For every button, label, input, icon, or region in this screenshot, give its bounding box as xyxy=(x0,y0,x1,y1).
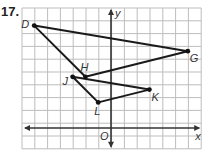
point-h xyxy=(83,74,88,79)
point-label-h: H xyxy=(80,61,88,73)
coordinate-plane: yxO DGHJKL xyxy=(0,0,204,151)
point-l xyxy=(96,100,101,105)
point-label-g: G xyxy=(190,52,199,64)
y-axis-arrow-down-icon xyxy=(108,142,114,148)
point-j xyxy=(70,74,75,79)
point-label-l: L xyxy=(94,105,100,117)
point-label-j: J xyxy=(62,75,69,87)
point-label-k: K xyxy=(151,91,159,103)
y-axis-arrow-up-icon xyxy=(108,9,114,15)
x-axis-label: x xyxy=(194,130,201,142)
point-d xyxy=(32,23,37,28)
x-axis-arrow-left-icon xyxy=(24,125,30,131)
point-label-d: D xyxy=(21,18,29,30)
y-axis-label: y xyxy=(114,7,122,19)
origin-label: O xyxy=(100,130,109,142)
